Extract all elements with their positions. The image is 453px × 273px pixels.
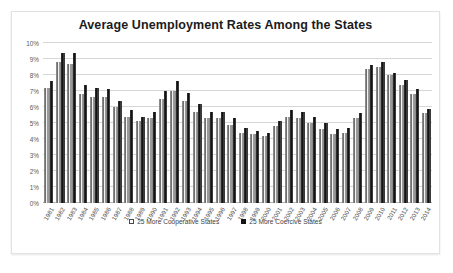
bar-coercive xyxy=(278,121,281,203)
bar-coercive xyxy=(107,89,110,203)
x-axis-tick: 1998 xyxy=(237,205,248,249)
bar-group xyxy=(192,43,203,203)
x-axis-tick: 1999 xyxy=(249,205,260,249)
bar-group xyxy=(215,43,226,203)
x-axis-tick: 2002 xyxy=(283,205,294,249)
bar-coercive xyxy=(198,104,201,203)
bar-group xyxy=(352,43,363,203)
bar-coercive xyxy=(416,89,419,203)
bar-coercive xyxy=(404,80,407,203)
bar-group xyxy=(123,43,134,203)
bar-group xyxy=(157,43,168,203)
y-axis-tick-label: 9% xyxy=(30,56,39,63)
plot-area: 10%9%8%7%6%5%4%3%2%1%0% xyxy=(43,43,432,203)
bar-group xyxy=(66,43,77,203)
chart-legend: 25 More Cooperative States25 More Coerci… xyxy=(12,218,439,225)
y-axis-tick-label: 1% xyxy=(30,184,39,191)
bar-coercive xyxy=(244,128,247,203)
x-axis-tick: 1989 xyxy=(135,205,146,249)
x-axis-tick: 1995 xyxy=(203,205,214,249)
bar-coercive xyxy=(50,81,53,203)
y-axis-tick-label: 5% xyxy=(30,120,39,127)
x-axis-tick: 1985 xyxy=(89,205,100,249)
bar-group xyxy=(135,43,146,203)
x-axis-tick: 1988 xyxy=(123,205,134,249)
x-axis-tick: 2007 xyxy=(340,205,351,249)
x-axis-tick: 2004 xyxy=(306,205,317,249)
bar-group xyxy=(77,43,88,203)
x-axis-tick: 2013 xyxy=(409,205,420,249)
bar-coercive xyxy=(187,93,190,203)
x-axis-tick: 1987 xyxy=(112,205,123,249)
y-axis-tick-label: 8% xyxy=(30,72,39,79)
y-axis-tick-label: 10% xyxy=(26,40,39,47)
bar-coercive xyxy=(118,101,121,203)
bar-group xyxy=(260,43,271,203)
bar-coercive xyxy=(61,53,64,203)
y-axis-tick-label: 0% xyxy=(30,200,39,207)
x-axis-tick: 1986 xyxy=(100,205,111,249)
bar-coercive xyxy=(256,131,259,203)
bar-coercive xyxy=(95,88,98,203)
bar-coercive xyxy=(324,123,327,203)
bar-group xyxy=(318,43,329,203)
bar-coercive xyxy=(381,62,384,203)
bar-coercive xyxy=(73,53,76,203)
bar-group xyxy=(180,43,191,203)
bar-group xyxy=(112,43,123,203)
x-axis-tick: 1990 xyxy=(146,205,157,249)
y-axis-tick-label: 4% xyxy=(30,136,39,143)
legend-item[interactable]: 25 More Cooperative States xyxy=(129,218,219,225)
y-axis-tick-label: 2% xyxy=(30,168,39,175)
x-axis-tick: 1994 xyxy=(192,205,203,249)
bar-coercive xyxy=(164,91,167,203)
x-axis-tick: 2001 xyxy=(272,205,283,249)
x-axis-tick: 2012 xyxy=(398,205,409,249)
x-axis-tick: 1992 xyxy=(169,205,180,249)
x-axis-tick: 2006 xyxy=(329,205,340,249)
bar-coercive xyxy=(313,117,316,203)
bar-coercive xyxy=(210,112,213,203)
x-axis-tick: 2003 xyxy=(295,205,306,249)
bar-group xyxy=(363,43,374,203)
y-axis-tick-label: 6% xyxy=(30,104,39,111)
bar-group xyxy=(409,43,420,203)
x-axis-tick: 2011 xyxy=(386,205,397,249)
bar-group xyxy=(203,43,214,203)
bar-group xyxy=(329,43,340,203)
x-axis-tick: 1991 xyxy=(157,205,168,249)
bar-group xyxy=(340,43,351,203)
bar-coercive xyxy=(267,133,270,203)
bar-group xyxy=(420,43,431,203)
bar-group xyxy=(386,43,397,203)
x-axis-tick: 1984 xyxy=(77,205,88,249)
x-axis-tick: 1993 xyxy=(180,205,191,249)
bar-coercive xyxy=(359,113,362,203)
x-axis-tick: 2010 xyxy=(375,205,386,249)
bar-coercive xyxy=(141,117,144,203)
x-axis-tick: 2008 xyxy=(352,205,363,249)
bar-coercive xyxy=(290,110,293,203)
bar-group xyxy=(100,43,111,203)
legend-swatch-cooperative-icon xyxy=(129,219,134,224)
bar-group xyxy=(375,43,386,203)
bar-group xyxy=(146,43,157,203)
chart-title: Average Unemployment Rates Among the Sta… xyxy=(12,18,439,32)
bar-coercive xyxy=(301,112,304,203)
bar-group xyxy=(226,43,237,203)
y-axis-tick-label: 3% xyxy=(30,152,39,159)
x-axis-tick: 2005 xyxy=(318,205,329,249)
bar-coercive xyxy=(176,81,179,203)
bar-group xyxy=(43,43,54,203)
legend-item[interactable]: 25 More Coercive States xyxy=(241,218,322,225)
y-axis-tick-label: 7% xyxy=(30,88,39,95)
x-axis-tick: 1981 xyxy=(43,205,54,249)
legend-label: 25 More Cooperative States xyxy=(137,218,219,225)
x-axis-tick: 1982 xyxy=(54,205,65,249)
bar-group xyxy=(306,43,317,203)
chart-frame: Average Unemployment Rates Among the Sta… xyxy=(11,11,440,254)
bar-group xyxy=(89,43,100,203)
bar-coercive xyxy=(153,112,156,203)
x-axis-tick: 1996 xyxy=(215,205,226,249)
bar-coercive xyxy=(370,65,373,203)
